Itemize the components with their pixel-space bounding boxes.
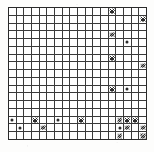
grid-cell[interactable] — [24, 31, 32, 39]
grid-cell[interactable] — [100, 85, 108, 93]
grid-cell[interactable] — [139, 101, 147, 109]
grid-cell[interactable] — [116, 8, 124, 16]
grid-cell[interactable] — [100, 124, 108, 132]
grid-cell[interactable] — [139, 77, 147, 85]
grid-cell[interactable] — [62, 124, 70, 132]
grid-cell[interactable] — [9, 108, 17, 116]
grid-cell[interactable] — [77, 116, 85, 124]
grid-cell[interactable] — [108, 62, 116, 70]
grid-cell[interactable] — [93, 77, 101, 85]
grid-cell[interactable] — [24, 93, 32, 101]
grid-cell[interactable] — [77, 101, 85, 109]
grid-cell[interactable] — [77, 132, 85, 140]
grid-cell[interactable] — [62, 132, 70, 140]
grid-cell[interactable] — [54, 15, 62, 23]
grid-cell[interactable] — [85, 15, 93, 23]
grid-cell[interactable] — [131, 15, 139, 23]
grid-cell[interactable] — [93, 101, 101, 109]
grid-cell[interactable] — [123, 124, 131, 132]
grid-cell[interactable] — [62, 39, 70, 47]
grid-cell[interactable] — [24, 124, 32, 132]
grid-cell[interactable] — [93, 85, 101, 93]
grid-cell[interactable] — [39, 31, 47, 39]
grid-cell[interactable] — [131, 93, 139, 101]
grid-cell[interactable] — [116, 77, 124, 85]
grid-cell[interactable] — [100, 101, 108, 109]
grid-cell[interactable] — [100, 116, 108, 124]
grid-cell[interactable] — [93, 93, 101, 101]
grid-cell[interactable] — [85, 116, 93, 124]
grid-cell[interactable] — [62, 23, 70, 31]
grid-cell[interactable] — [77, 70, 85, 78]
grid-cell[interactable] — [108, 70, 116, 78]
grid-cell[interactable] — [39, 77, 47, 85]
grid-cell[interactable] — [123, 108, 131, 116]
grid-cell[interactable] — [131, 70, 139, 78]
grid-cell[interactable] — [116, 39, 124, 47]
grid-cell[interactable] — [123, 15, 131, 23]
grid-cell[interactable] — [85, 132, 93, 140]
grid-cell[interactable] — [77, 23, 85, 31]
grid-cell[interactable] — [62, 15, 70, 23]
grid-cell[interactable] — [77, 8, 85, 16]
grid-cell[interactable] — [123, 101, 131, 109]
grid-cell[interactable] — [77, 62, 85, 70]
grid-cell[interactable] — [139, 23, 147, 31]
grid-cell[interactable] — [123, 93, 131, 101]
grid-cell[interactable] — [100, 39, 108, 47]
grid-cell[interactable] — [62, 62, 70, 70]
grid-cell[interactable] — [39, 132, 47, 140]
grid-cell[interactable] — [70, 101, 78, 109]
grid-cell[interactable] — [16, 8, 24, 16]
grid-cell[interactable] — [93, 15, 101, 23]
grid-cell[interactable] — [93, 108, 101, 116]
grid-cell[interactable] — [116, 93, 124, 101]
grid-cell[interactable] — [116, 70, 124, 78]
grid-cell[interactable] — [100, 77, 108, 85]
grid-cell[interactable] — [116, 108, 124, 116]
grid-cell[interactable] — [123, 132, 131, 140]
grid-cell[interactable] — [77, 77, 85, 85]
grid-cell[interactable] — [123, 8, 131, 16]
grid-cell[interactable] — [85, 54, 93, 62]
grid-cell[interactable] — [54, 77, 62, 85]
grid-cell[interactable] — [31, 132, 39, 140]
grid-cell[interactable] — [39, 62, 47, 70]
grid-cell[interactable] — [31, 93, 39, 101]
grid-cell[interactable] — [31, 124, 39, 132]
grid-cell[interactable] — [9, 116, 17, 124]
grid-cell[interactable] — [85, 108, 93, 116]
grid-cell[interactable] — [62, 8, 70, 16]
grid-cell[interactable] — [24, 39, 32, 47]
grid-cell[interactable] — [116, 46, 124, 54]
grid-cell[interactable] — [108, 46, 116, 54]
grid-cell[interactable] — [54, 46, 62, 54]
grid-cell[interactable] — [9, 62, 17, 70]
grid-cell[interactable] — [47, 132, 55, 140]
grid-cell[interactable] — [108, 124, 116, 132]
grid-cell[interactable] — [31, 62, 39, 70]
grid-cell[interactable] — [54, 116, 62, 124]
grid-cell[interactable] — [31, 39, 39, 47]
grid-cell[interactable] — [39, 70, 47, 78]
grid-cell[interactable] — [100, 108, 108, 116]
grid-cell[interactable] — [93, 70, 101, 78]
grid-cell[interactable] — [9, 77, 17, 85]
grid-cell[interactable] — [108, 23, 116, 31]
grid-cell[interactable] — [77, 54, 85, 62]
grid-cell[interactable] — [9, 93, 17, 101]
grid-cell[interactable] — [54, 108, 62, 116]
grid-cell[interactable] — [9, 70, 17, 78]
grid-cell[interactable] — [131, 77, 139, 85]
grid-cell[interactable] — [54, 93, 62, 101]
grid-cell[interactable] — [139, 15, 147, 23]
grid-cell[interactable] — [62, 54, 70, 62]
grid-cell[interactable] — [47, 77, 55, 85]
grid-cell[interactable] — [123, 116, 131, 124]
grid-cell[interactable] — [108, 39, 116, 47]
grid-cell[interactable] — [85, 31, 93, 39]
grid-cell[interactable] — [85, 70, 93, 78]
grid-cell[interactable] — [70, 31, 78, 39]
grid-cell[interactable] — [108, 108, 116, 116]
grid-cell[interactable] — [24, 23, 32, 31]
